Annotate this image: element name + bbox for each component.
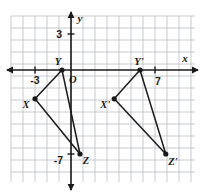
x-axis-label: x: [181, 52, 188, 64]
vertex-point-x: [32, 96, 37, 101]
y-axis-arrow-down: [68, 184, 75, 191]
x-tick-label-7: 7: [155, 75, 161, 87]
y-axis-label: y: [76, 12, 83, 24]
vertex-label-z: Z: [82, 155, 90, 166]
x-axis-arrow-right: [192, 67, 199, 74]
vertex-point-x-prime: [112, 96, 117, 101]
vertex-label-x-prime: X': [99, 99, 110, 110]
y-tick-label-minus7: -7: [54, 154, 63, 166]
vertex-point-y: [59, 67, 64, 72]
coordinate-plane-figure: x y -3 7 3 -7 O XYZX'Y'Z': [0, 0, 207, 195]
vertex-label-y-prime: Y': [134, 56, 143, 67]
y-axis-arrow-up: [68, 11, 75, 18]
vertex-point-y-prime: [137, 67, 142, 72]
vertex-label-y: Y: [55, 56, 63, 67]
x-axis-arrow-left: [6, 67, 13, 74]
vertex-label-x: X: [21, 99, 30, 110]
y-tick-label-3: 3: [56, 28, 62, 40]
vertex-label-z-prime: Z': [167, 156, 177, 167]
coordinate-graph: x y -3 7 3 -7 O XYZX'Y'Z': [0, 0, 207, 195]
origin-label: O: [69, 74, 77, 85]
x-tick-label-minus3: -3: [30, 74, 39, 86]
